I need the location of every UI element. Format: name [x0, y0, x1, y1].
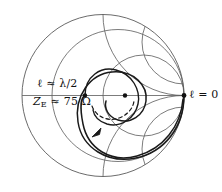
smith-chart-figure: ℓ ≈ λ/2 ZE ≈ 75 Ω ℓ = 0 [0, 0, 222, 192]
reactance-arc-positive-2 [142, 0, 222, 84]
marker-point-center [123, 93, 127, 97]
label-zero-length: ℓ = 0 [189, 89, 218, 100]
impedance-symbol: Z [33, 95, 41, 108]
label-input-impedance: ZE ≈ 75 Ω [33, 96, 91, 109]
reactance-arc-positive-1 [103, 0, 222, 96]
impedance-subscript: E [41, 100, 47, 109]
marker-point-load [182, 93, 187, 98]
impedance-locus-outer-sweep [81, 96, 183, 158]
impedance-value: ≈ 75 Ω [51, 95, 92, 108]
impedance-locus-dashed-segment [92, 100, 134, 119]
label-half-wavelength: ℓ ≈ λ/2 [37, 78, 78, 89]
locus-arrowhead [92, 128, 101, 137]
